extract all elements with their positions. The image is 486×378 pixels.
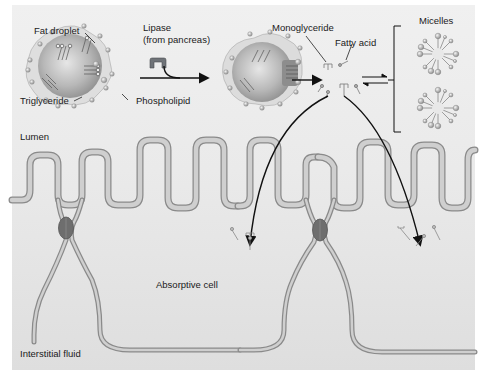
label-interstitial-fluid: Interstitial fluid <box>20 348 81 359</box>
label-absorptive-cell: Absorptive cell <box>156 279 218 290</box>
label-lipase: Lipase <box>143 22 171 33</box>
label-lumen: Lumen <box>20 131 49 142</box>
label-lipase-source: (from pancreas) <box>143 34 210 45</box>
label-fat-droplet: Fat droplet <box>34 25 79 36</box>
diagram-canvas: Fat droplet Lipase (from pancreas) Trigl… <box>0 0 486 378</box>
label-micelles: Micelles <box>419 15 453 26</box>
label-monoglyceride: Monoglyceride <box>272 22 334 33</box>
label-triglyceride: Triglyceride <box>20 95 69 106</box>
label-fatty-acid: Fatty acid <box>335 37 376 48</box>
label-phospholipid: Phospholipid <box>136 95 190 106</box>
tight-junction-left <box>59 217 74 239</box>
diagram-svg <box>0 0 486 378</box>
tight-junction-right <box>313 219 328 241</box>
